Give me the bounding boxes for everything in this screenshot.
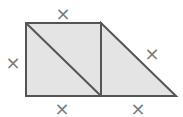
label-top-side: × (55, 3, 70, 24)
label-left-side: × (5, 52, 20, 73)
label-hypotenuse: × (144, 43, 159, 64)
label-bottom-left-side: × (54, 98, 69, 117)
label-bottom-right-side: × (130, 98, 145, 117)
right-triangle (101, 23, 176, 96)
trapezoid-diagram: × × × × × (0, 0, 183, 116)
